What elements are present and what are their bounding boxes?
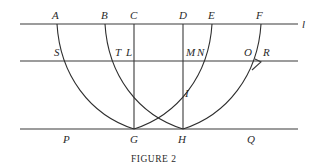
label-Q: Q [247,133,255,145]
label-T: T [115,46,122,58]
figure-caption: FIGURE 2 [131,154,176,164]
label-O: O [244,46,252,58]
geometry-figure: A B C D E F l S T L M N O R I P G H Q FI… [0,0,324,168]
label-M: M [185,46,196,58]
arc-AG [57,24,134,129]
label-l: l [302,18,305,30]
label-R: R [262,46,270,58]
label-D: D [178,9,187,21]
arc-FH [183,24,261,129]
label-P: P [62,133,70,145]
arc-BH [105,24,183,129]
label-A: A [51,9,59,21]
label-B: B [101,9,108,21]
label-F: F [255,9,263,21]
label-S: S [54,46,60,58]
label-C: C [130,9,138,21]
label-N: N [196,46,205,58]
label-E: E [207,9,215,21]
label-H: H [177,133,187,145]
label-L: L [125,46,132,58]
label-G: G [130,133,138,145]
arc-EG [134,24,212,129]
